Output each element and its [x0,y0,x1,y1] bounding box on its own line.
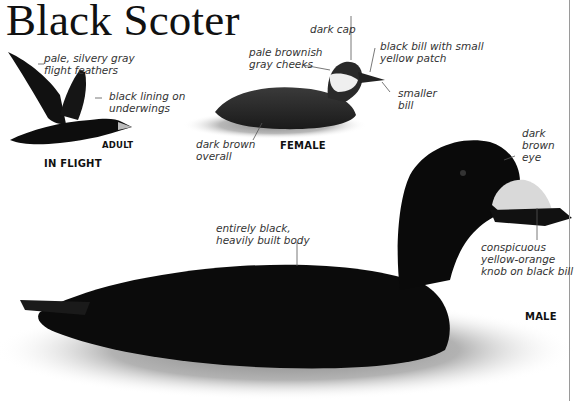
female-scoter-illustration [183,62,385,139]
label-line: dark [522,127,555,139]
label-line: entirely black, [216,222,310,234]
label-line: pale, silvery gray [44,52,135,64]
caption-adult: ADULT [102,140,133,150]
label-line: smaller [398,87,437,99]
label-line: conspicuous [481,241,573,253]
label-line: knob on black bill [481,265,573,277]
label-knob: conspicuous yellow-orange knob on black … [481,241,573,277]
label-underwings: black lining on underwings [109,90,185,114]
caption-in-flight: IN FLIGHT [44,158,102,169]
label-line: overall [196,150,255,162]
label-line: underwings [109,102,185,114]
caption-male: MALE [525,311,557,322]
label-flight-feathers: pale, silvery gray flight feathers [44,52,135,76]
label-line: pale brownish [249,46,323,58]
label-cheeks: pale brownish gray cheeks [249,46,323,70]
field-guide-page: Black Scoter [0,0,576,401]
label-male-body: entirely black, heavily built body [216,222,310,246]
label-female-bill: black bill with small yellow patch [380,40,484,64]
label-line: bill [398,99,437,111]
label-eye: dark brown eye [522,127,555,163]
label-line: brown [522,139,555,151]
label-line: heavily built body [216,234,310,246]
label-female-body: dark brown overall [196,138,255,162]
label-smaller-bill: smaller bill [398,87,437,111]
page-edge-divider [569,0,570,401]
label-line: dark brown [196,138,255,150]
label-line: yellow patch [380,52,484,64]
label-line: flight feathers [44,64,135,76]
label-line: yellow-orange [481,253,573,265]
label-line: eye [522,151,555,163]
label-dark-cap: dark cap [310,23,356,35]
caption-female: FEMALE [280,140,326,151]
label-line: black lining on [109,90,185,102]
label-line: gray cheeks [249,58,323,70]
label-line: black bill with small [380,40,484,52]
